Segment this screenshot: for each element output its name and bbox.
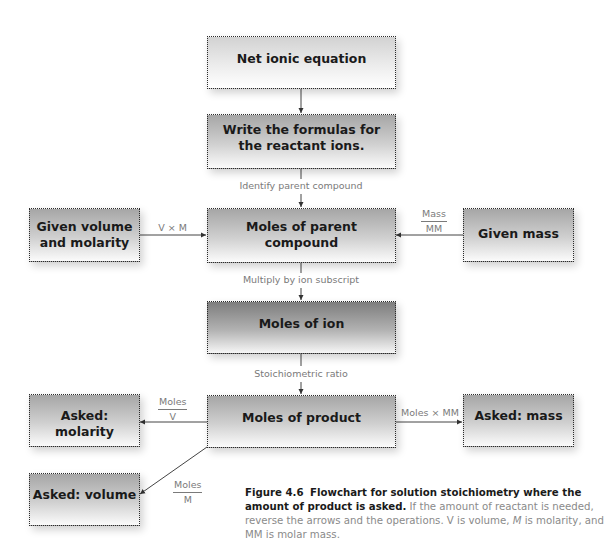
node-given-volume-molarity: Given volume and molarity [29, 208, 140, 262]
node-label: Given volume and molarity [37, 209, 133, 251]
caption-label: Figure 4.6 [245, 487, 304, 498]
node-asked-volume: Asked: volume [29, 473, 140, 526]
fraction-denominator: V [158, 410, 187, 423]
node-label: Asked: molarity [30, 395, 139, 440]
node-label: Moles of parent compound [246, 209, 357, 251]
node-net-ionic-equation: Net ionic equation [207, 36, 396, 89]
edge-label-multiply-subscript: Multiply by ion subscript [236, 274, 366, 285]
fraction-numerator: Moles [158, 396, 187, 410]
node-label-line-2: and molarity [37, 235, 133, 251]
node-moles-of-product: Moles of product [207, 395, 396, 448]
edge-label-moles-times-mm: Moles × MM [399, 407, 461, 418]
node-label: Moles of ion [259, 302, 345, 332]
node-label: Asked: mass [474, 395, 562, 424]
node-label: Net ionic equation [237, 37, 367, 67]
node-label-line-1: Write the formulas for [223, 122, 380, 138]
node-moles-parent-compound: Moles of parent compound [207, 208, 396, 263]
node-moles-of-ion: Moles of ion [207, 301, 396, 354]
node-asked-mass: Asked: mass [463, 394, 574, 447]
node-given-mass: Given mass [463, 208, 574, 262]
edge-label-moles-over-m: Moles M [173, 479, 202, 506]
node-asked-molarity: Asked: molarity [29, 394, 140, 447]
figure-caption: Figure 4.6 Flowchart for solution stoich… [245, 486, 605, 542]
fraction-denominator: MM [421, 222, 447, 235]
node-label: Moles of product [242, 396, 361, 426]
edge-label-identify-parent: Identify parent compound [236, 180, 366, 191]
fraction-numerator: Moles [173, 479, 202, 493]
edge-label-v-times-m: V × M [150, 222, 195, 233]
fraction-numerator: Mass [421, 208, 447, 222]
node-label-line-1: Given volume [37, 219, 133, 235]
node-label: Write the formulas for the reactant ions… [223, 115, 380, 154]
node-label: Given mass [478, 209, 559, 242]
node-label-line-2: the reactant ions. [223, 138, 380, 154]
node-label-line-1: Moles of parent [246, 219, 357, 235]
edge-label-mass-over-mm: Mass MM [421, 208, 447, 235]
node-label: Asked: volume [33, 474, 136, 503]
caption-italic-m: M [513, 515, 522, 526]
edge-label-moles-over-v: Moles V [158, 396, 187, 423]
node-label-line-2: compound [246, 235, 357, 251]
node-write-formulas: Write the formulas for the reactant ions… [207, 114, 396, 169]
edge-label-stoich-ratio: Stoichiometric ratio [246, 368, 356, 379]
fraction-denominator: M [173, 493, 202, 506]
